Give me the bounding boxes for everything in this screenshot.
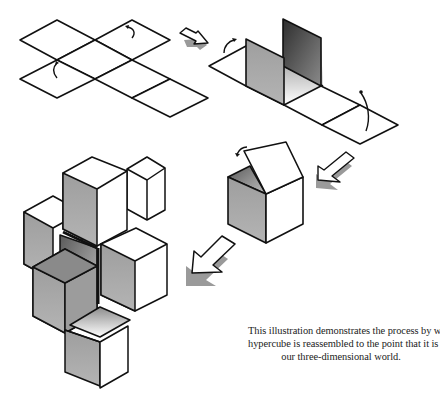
flat-net [20, 20, 208, 117]
folding-cube [228, 142, 303, 243]
caption-line-3: our three-dimensional world. [248, 350, 434, 363]
partially-folded-net [209, 19, 398, 144]
assembled-hypercube [24, 157, 167, 388]
figure-caption: This illustration demonstrates the proce… [248, 324, 434, 364]
caption-line-2: hypercube is reassembled to the point th… [248, 337, 434, 350]
arrow-right-icon [180, 28, 208, 50]
arrow-left-down-icon [316, 152, 354, 190]
arrow-left-down-large-icon [186, 236, 235, 286]
caption-line-1: This illustration demonstrates the proce… [248, 324, 434, 337]
fold-arrow-icon [224, 40, 234, 53]
